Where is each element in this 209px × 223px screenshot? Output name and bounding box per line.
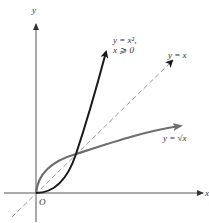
- square-root-label: y = √x: [163, 134, 187, 143]
- x-axis-label: x: [205, 189, 209, 198]
- curve-square-root: [36, 126, 180, 193]
- parabola-label-line2: x ⩾ 0: [113, 46, 134, 55]
- parabola-label-line1: y = x²,: [113, 36, 137, 45]
- diagram-canvas: [0, 0, 209, 223]
- identity-label: y = x: [168, 51, 187, 60]
- curve-parabola: [36, 52, 106, 193]
- y-axis-label: y: [32, 6, 36, 15]
- origin-label: O: [39, 198, 46, 207]
